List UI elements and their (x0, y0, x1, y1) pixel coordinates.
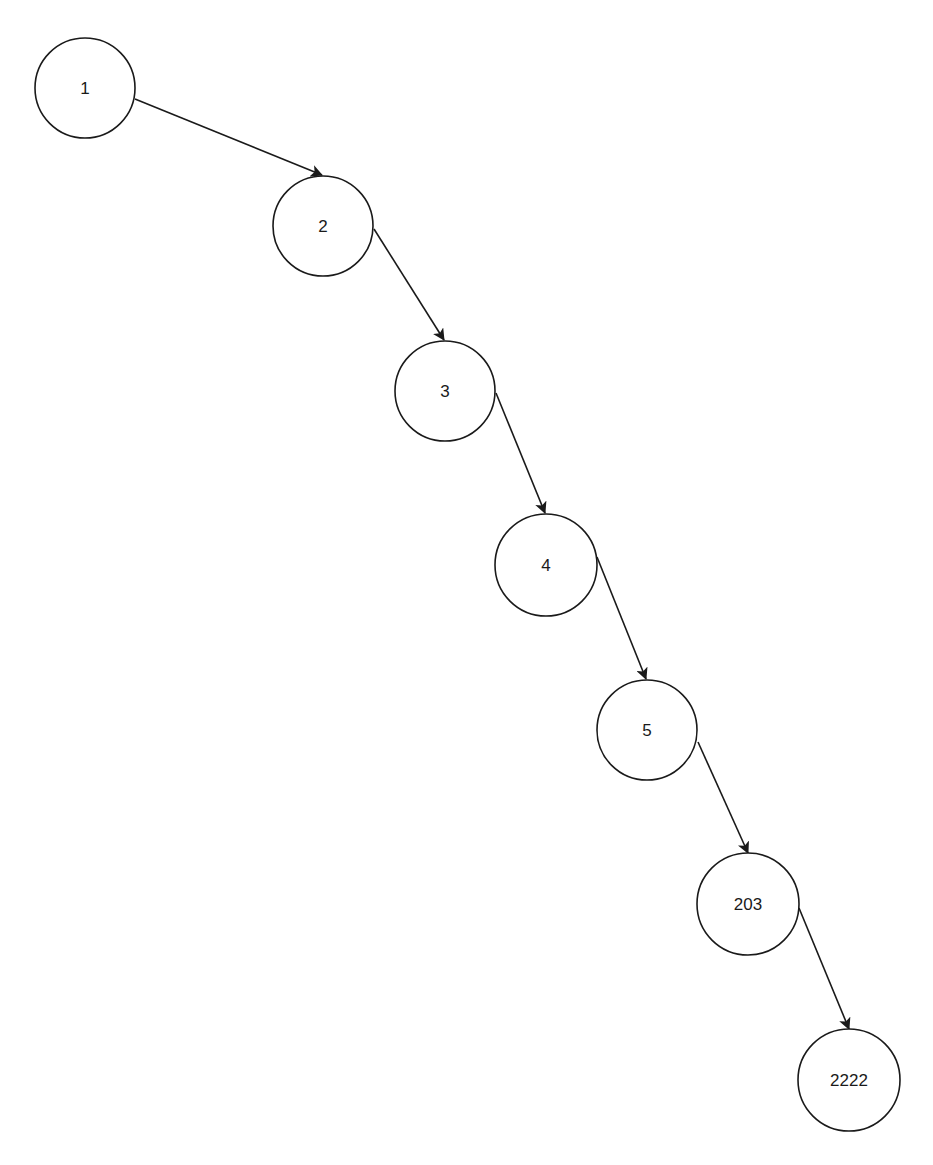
node-1: 1 (35, 38, 135, 138)
edge-arrow-2-to-3 (374, 229, 444, 340)
edge-arrow-3-to-4 (496, 393, 545, 513)
node-5: 5 (597, 680, 697, 780)
node-203: 203 (697, 853, 799, 955)
edge-arrow-5-to-203 (698, 742, 748, 853)
node-label: 1 (80, 79, 89, 98)
node-3: 3 (395, 341, 495, 441)
node-label: 3 (440, 382, 449, 401)
node-label: 5 (642, 721, 651, 740)
node-label: 203 (734, 895, 762, 914)
node-label: 2 (318, 217, 327, 236)
node-label: 2222 (830, 1071, 868, 1090)
node-label: 4 (541, 556, 550, 575)
node-4: 4 (495, 514, 597, 616)
node-2222: 2222 (798, 1029, 900, 1131)
tree-diagram: 123452032222 (0, 0, 933, 1165)
edge-arrow-203-to-2222 (799, 908, 849, 1029)
nodes-layer: 123452032222 (35, 38, 900, 1131)
edge-arrow-4-to-5 (597, 557, 646, 679)
node-2: 2 (273, 176, 373, 276)
edge-arrow-1-to-2 (135, 99, 322, 175)
